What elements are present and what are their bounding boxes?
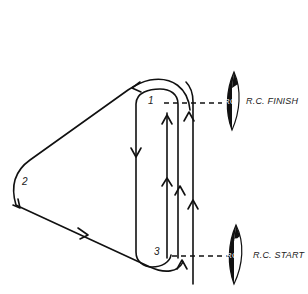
windward-leeward-loop <box>136 89 178 267</box>
rc-finish-label: R.C. FINISH <box>246 96 298 106</box>
mark-3-label: 3 <box>154 246 160 257</box>
arrow-up-icon <box>175 186 185 195</box>
rc-start-label: R.C. START <box>253 250 304 260</box>
triangle-leg-path <box>14 79 190 271</box>
mark-2-label: 2 <box>22 176 28 187</box>
finish-boat-hull-text: RC <box>224 97 236 106</box>
mark-1-label: 1 <box>148 95 154 106</box>
start-boat-hull-text: RC <box>226 251 238 260</box>
